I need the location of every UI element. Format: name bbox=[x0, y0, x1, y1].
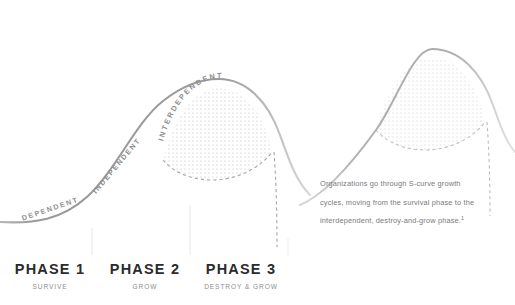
phase-1-title: PHASE 1 bbox=[2, 262, 98, 277]
phase-1-subtitle: SURVIVE bbox=[2, 284, 98, 291]
phase-block-1: PHASE 1 SURVIVE bbox=[2, 262, 98, 290]
phase-block-2: PHASE 2 GROW bbox=[97, 262, 193, 290]
phase-dividers bbox=[92, 205, 288, 255]
drop-line-dashed-primary bbox=[274, 152, 277, 247]
phase-2-subtitle: GROW bbox=[97, 284, 193, 291]
caption-line-3-text: interdependent, destroy-and-grow phase. bbox=[320, 216, 461, 225]
caption-footnote-marker: 1 bbox=[461, 215, 464, 221]
caption-block: Organizations go through S-curve growth … bbox=[320, 175, 505, 231]
phase-3-subtitle: DESTROY & GROW bbox=[193, 284, 289, 291]
s-curve-diagram: INTERDEPENDENT DEPENDENT INDEPENDENT PHA… bbox=[0, 0, 515, 305]
caption-line-2: cycles, moving from the survival phase t… bbox=[320, 194, 505, 213]
diagram-canvas bbox=[0, 0, 515, 305]
caption-line-3: interdependent, destroy-and-grow phase.1 bbox=[320, 212, 505, 231]
phase-2-title: PHASE 2 bbox=[97, 262, 193, 277]
phase-block-3: PHASE 3 DESTROY & GROW bbox=[193, 262, 289, 290]
s-curve-primary bbox=[0, 79, 310, 247]
phase-3-title: PHASE 3 bbox=[193, 262, 289, 277]
caption-line-1: Organizations go through S-curve growth bbox=[320, 175, 505, 194]
dome-fill-primary bbox=[163, 88, 272, 180]
